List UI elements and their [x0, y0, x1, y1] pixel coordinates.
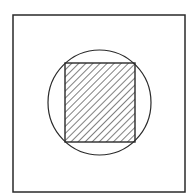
inner-square-hatched: [65, 63, 135, 142]
diagram-canvas: [0, 0, 191, 193]
